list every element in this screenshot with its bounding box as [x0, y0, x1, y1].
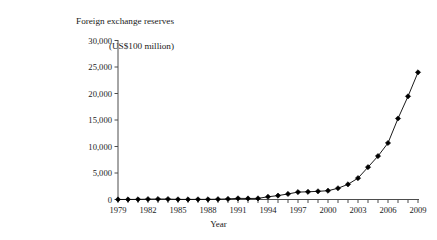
- x-axis-tick-label: 1994: [259, 205, 277, 215]
- data-point-marker: [215, 197, 220, 202]
- data-point-marker: [335, 186, 340, 191]
- y-axis-tick-label: 5,000: [93, 168, 112, 178]
- data-point-marker: [115, 197, 120, 202]
- data-point-marker: [125, 197, 130, 202]
- data-point-marker: [255, 196, 260, 201]
- y-axis: 05,00010,00015,00020,00025,00030,000: [88, 36, 118, 205]
- data-point-marker: [165, 196, 170, 201]
- data-point-marker: [145, 197, 150, 202]
- data-point-marker: [175, 197, 180, 202]
- data-point-marker: [405, 94, 410, 99]
- y-axis-tick-label: 10,000: [88, 142, 112, 152]
- y-axis-tick-label: 15,000: [88, 115, 112, 125]
- data-point-marker: [325, 188, 330, 193]
- data-point-marker: [285, 191, 290, 196]
- line-chart-plot: 05,00010,00015,00020,00025,00030,000 197…: [0, 0, 437, 240]
- data-point-marker: [245, 196, 250, 201]
- data-series-foreign-exchange-reserves: [115, 70, 420, 202]
- data-point-marker: [185, 197, 190, 202]
- data-point-marker: [315, 189, 320, 194]
- x-axis-tick-label: 1988: [199, 205, 216, 215]
- data-point-marker: [225, 196, 230, 201]
- data-point-marker: [235, 196, 240, 201]
- y-axis-tick-label: 30,000: [88, 36, 112, 46]
- x-axis-tick-label: 2006: [379, 205, 397, 215]
- data-point-marker: [395, 116, 400, 121]
- y-axis-tick-label: 0: [108, 195, 112, 205]
- x-axis-tick-label: 2000: [319, 205, 336, 215]
- chart-figure: Foreign exchange reserves (US$100 millio…: [0, 0, 437, 240]
- data-point-marker: [265, 194, 270, 199]
- y-axis-tick-label: 20,000: [88, 89, 112, 99]
- data-point-marker: [195, 197, 200, 202]
- x-axis-title: Year: [0, 219, 437, 229]
- data-point-marker: [305, 189, 310, 194]
- data-point-marker: [345, 182, 350, 187]
- data-point-marker: [155, 196, 160, 201]
- x-axis-tick-label: 2009: [409, 205, 426, 215]
- x-axis-tick-label: 1991: [229, 205, 246, 215]
- y-axis-tick-label: 25,000: [88, 62, 112, 72]
- data-point-marker: [275, 193, 280, 198]
- data-point-marker: [295, 189, 300, 194]
- x-axis-tick-label: 2003: [349, 205, 366, 215]
- series-line: [118, 72, 418, 199]
- x-axis-tick-label: 1997: [289, 205, 307, 215]
- x-axis: 1979198219851988199119941997200020032006…: [109, 200, 426, 215]
- data-point-marker: [135, 197, 140, 202]
- x-axis-tick-label: 1985: [169, 205, 186, 215]
- data-point-marker: [205, 197, 210, 202]
- x-axis-tick-label: 1979: [109, 205, 126, 215]
- x-axis-tick-label: 1982: [139, 205, 156, 215]
- data-point-marker: [415, 70, 420, 75]
